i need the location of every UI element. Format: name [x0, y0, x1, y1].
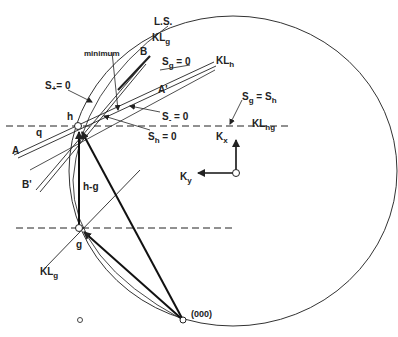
label-ky: Ky: [180, 171, 192, 185]
point-h: [75, 123, 82, 130]
laue-sphere-arc: [73, 26, 183, 320]
label-sh0: Sh = 0: [148, 131, 177, 145]
label-splus: S+= 0: [45, 80, 71, 93]
point-origin: [180, 317, 186, 323]
label-ls: L.S.: [154, 16, 173, 27]
axis-origin: [233, 170, 240, 177]
label-a: A: [12, 145, 19, 156]
label-klg-bottom: KLg: [40, 266, 58, 280]
label-bprime: B': [22, 179, 32, 190]
label-b: B: [140, 46, 147, 57]
splus-pointer: [68, 90, 92, 102]
label-klg-top: KLg: [152, 32, 170, 46]
label-sminus: S- = 0: [162, 111, 189, 124]
kl-h-line: [14, 62, 214, 155]
b-thick-segment: [118, 56, 150, 90]
small-circle: [78, 318, 83, 323]
label-klhg: KLhg: [252, 118, 275, 132]
label-sg-eq-sh: Sg = Sh: [242, 91, 277, 105]
label-q: q: [36, 127, 42, 138]
label-h: h: [67, 111, 73, 122]
label-aprime: A': [158, 84, 168, 95]
label-kx: Kx: [216, 131, 228, 145]
label-minimum: minimum: [84, 49, 120, 58]
label-sg0: Sg = 0: [162, 56, 191, 70]
vector-origin-to-g: [84, 232, 183, 320]
sgsh-pointer: [230, 100, 242, 124]
sh-pointer: [104, 116, 150, 130]
label-h-minus-g: h-g: [83, 181, 99, 192]
ewald-sphere-diagram: L.S. KLg minimum B Sg = 0 KLh S+= 0 A' h…: [0, 0, 398, 337]
point-g: [76, 225, 83, 232]
label-origin: (000): [191, 309, 212, 319]
sg-line: [36, 56, 150, 190]
label-g: g: [76, 239, 82, 250]
sminus-pointer: [130, 106, 160, 112]
label-klh: KLh: [216, 55, 234, 69]
vector-origin-to-h: [82, 132, 183, 320]
